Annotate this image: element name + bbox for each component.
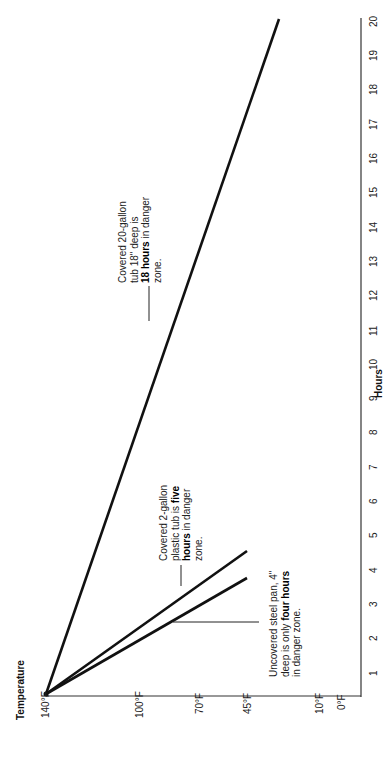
hours-tick-7: 7 (368, 464, 379, 470)
series-steel-pan-line (46, 578, 247, 694)
hours-tick-2: 2 (368, 635, 379, 641)
note-line: tub 18" deep is (129, 197, 141, 283)
note-emphasis: five (170, 486, 181, 503)
hours-tick-8: 8 (368, 429, 379, 435)
hours-axis-title: Hours (373, 369, 384, 398)
hours-tick-9: 9 (368, 395, 379, 401)
note-line: hours in danger (181, 485, 193, 561)
hours-tick-5: 5 (368, 532, 379, 538)
hours-tick-4: 4 (368, 567, 379, 573)
note-text: in danger (140, 197, 151, 241)
hours-tick-18: 18 (368, 84, 379, 95)
hours-tick-6: 6 (368, 498, 379, 504)
note-line: Covered 2-gallon (158, 485, 170, 561)
hours-tick-3: 3 (368, 601, 379, 607)
temp-tick-140: 140°F (40, 691, 51, 718)
note-line: Covered 20-gallon (117, 197, 129, 283)
temp-tick-100: 100°F (134, 691, 145, 718)
hours-tick-17: 17 (368, 119, 379, 130)
chart-plot (0, 0, 392, 766)
note-emphasis: 18 hours (140, 241, 151, 283)
temp-tick-10: 10°F (314, 693, 325, 714)
hours-tick-19: 19 (368, 50, 379, 61)
hours-tick-16: 16 (368, 153, 379, 164)
temp-tick-0: 0°F (336, 694, 347, 710)
annotation-big-tub: Covered 20-gallon tub 18" deep is 18 hou… (117, 197, 163, 283)
hours-tick-15: 15 (368, 187, 379, 198)
note-line: deep is only four hours (280, 571, 292, 677)
annotation-plastic-tub: Covered 2-gallon plastic tub is five hou… (158, 485, 204, 561)
note-text: plastic tub is (170, 503, 181, 561)
hours-tick-11: 11 (368, 326, 379, 336)
note-line: plastic tub is five (170, 485, 182, 561)
hours-tick-10: 10 (368, 359, 379, 370)
temp-tick-70: 70°F (194, 693, 205, 714)
series-big-tub-line (46, 19, 279, 694)
note-emphasis: hours (181, 533, 192, 561)
note-line: zone. (152, 197, 164, 283)
note-line: in danger zone. (291, 571, 303, 677)
temp-tick-45: 45°F (242, 693, 253, 714)
note-text: in danger (181, 489, 192, 533)
note-line: Uncovered steel pan, 4" (268, 571, 280, 677)
hours-tick-12: 12 (368, 290, 379, 301)
note-text: deep is only (280, 621, 291, 677)
hours-tick-20: 20 (368, 16, 379, 27)
note-line: 18 hours in danger (140, 197, 152, 283)
hours-tick-1: 1 (368, 670, 379, 676)
temperature-axis-title: Temperature (15, 660, 26, 720)
hours-tick-14: 14 (368, 222, 379, 233)
note-line: zone. (193, 485, 205, 561)
annotation-steel-pan: Uncovered steel pan, 4" deep is only fou… (268, 571, 303, 677)
note-emphasis: four hours (280, 571, 291, 621)
hours-tick-13: 13 (368, 256, 379, 267)
